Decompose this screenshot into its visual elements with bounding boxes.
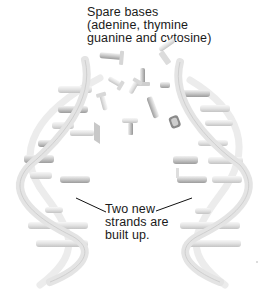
free-base <box>176 168 179 178</box>
left-pointer-line <box>76 198 106 212</box>
free-base <box>70 122 100 144</box>
right-dna-helix <box>173 62 249 285</box>
free-base <box>160 82 170 88</box>
free-base <box>168 115 182 130</box>
free-base <box>146 96 159 119</box>
right-pointer-line <box>156 198 192 211</box>
free-base <box>99 49 124 65</box>
free-base <box>96 92 110 112</box>
free-base <box>106 74 125 91</box>
free-base <box>122 118 138 135</box>
left-dna-helix <box>20 60 100 285</box>
dna-replication-illustration <box>0 0 270 298</box>
